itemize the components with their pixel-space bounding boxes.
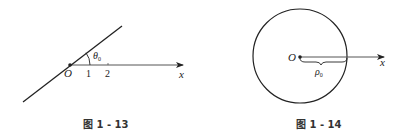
line-through-origin: [23, 26, 122, 102]
angle-label: θ0: [93, 50, 101, 62]
radius-label: ρ0: [314, 66, 323, 78]
figure-caption: 图 1 - 13: [83, 119, 129, 130]
axis-label-x: x: [379, 56, 385, 68]
tick-label-1: 1: [86, 68, 91, 79]
tick-label-2: 2: [105, 68, 110, 79]
figure-1-14: O x ρ0 图 1 - 14: [253, 9, 385, 130]
figure-1-13: O 1 2 x θ0 图 1 - 13: [23, 26, 184, 130]
origin-label: O: [64, 67, 72, 79]
radius-brace: [300, 58, 347, 65]
figure-caption: 图 1 - 14: [296, 119, 342, 130]
diagram-canvas: O 1 2 x θ0 图 1 - 13 O x ρ0 图 1 - 14: [0, 0, 396, 139]
origin-label: O: [288, 51, 296, 63]
angle-arc: [86, 53, 90, 65]
axis-label-x: x: [178, 68, 184, 80]
